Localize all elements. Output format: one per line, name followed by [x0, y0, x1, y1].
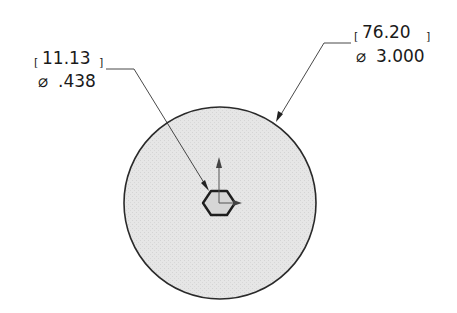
od-metric-value: 76.20	[362, 22, 411, 42]
hex-metric-bracket-right: ]	[99, 56, 103, 69]
outer-diameter-leader	[276, 43, 351, 122]
hex-hole-dimension: [ 11.13 ] ⌀ .438	[34, 48, 103, 91]
od-metric-bracket-right: ]	[426, 30, 430, 43]
od-imperial-value: 3.000	[376, 46, 425, 66]
od-metric-bracket-left: [	[354, 30, 358, 43]
hex-metric-bracket-left: [	[34, 56, 38, 69]
hex-imperial-value: .438	[58, 71, 96, 91]
outer-diameter-dimension: [ 76.20 ] ⌀ 3.000	[354, 22, 430, 66]
od-diameter-symbol: ⌀	[356, 46, 366, 66]
hex-metric-value: 11.13	[42, 48, 91, 68]
hex-diameter-symbol: ⌀	[38, 71, 48, 91]
drawing-canvas: [ 11.13 ] ⌀ .438 [ 76.20 ] ⌀ 3.000	[0, 0, 457, 313]
